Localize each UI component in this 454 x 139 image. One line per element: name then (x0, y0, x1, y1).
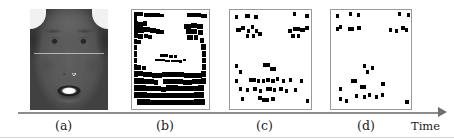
feature-block (148, 35, 152, 39)
feature-block (266, 87, 272, 91)
feature-block (239, 70, 242, 74)
feature-block (201, 71, 206, 77)
feature-block (398, 12, 401, 16)
figure-container: (a) (b) (c) (d) Time (0, 0, 454, 139)
blockmap-b (132, 10, 209, 109)
feature-block (368, 93, 371, 97)
page-rule-divider (0, 137, 454, 138)
feature-block (259, 89, 262, 93)
feature-block (339, 97, 342, 101)
blockmap-c (230, 10, 311, 109)
feature-block (138, 34, 143, 39)
feature-block (355, 94, 358, 98)
feature-block (246, 88, 249, 92)
feature-block (288, 29, 291, 33)
feature-block (258, 32, 261, 36)
feature-block (273, 88, 276, 92)
feature-block (200, 99, 205, 105)
feature-block (271, 97, 274, 101)
panel-a-face-image (30, 9, 108, 110)
feature-block (201, 44, 206, 50)
feature-block (144, 13, 153, 17)
feature-block (154, 80, 159, 85)
panel-caption-a: (a) (55, 119, 72, 133)
feature-block (282, 79, 285, 83)
feature-block (142, 66, 146, 70)
feature-block (293, 12, 296, 16)
panel-caption-c: (c) (256, 119, 273, 133)
feature-block (306, 99, 309, 103)
feature-block (305, 14, 308, 18)
feature-block (183, 59, 186, 62)
feature-block (164, 54, 168, 57)
feature-block (252, 34, 255, 38)
feature-block (363, 95, 366, 99)
feature-block (241, 97, 244, 101)
feature-block (254, 15, 257, 19)
blockmap-d (331, 10, 411, 109)
feature-block (276, 77, 279, 81)
feature-block (257, 79, 260, 83)
feature-block (179, 60, 182, 63)
feature-block (289, 78, 292, 82)
feature-block (395, 29, 398, 33)
feature-block (246, 34, 249, 38)
feature-block (245, 14, 251, 18)
feature-block (137, 65, 141, 70)
panel-caption-d: (d) (357, 119, 375, 133)
feature-block (134, 51, 137, 57)
feature-block (357, 26, 360, 30)
feature-block (143, 21, 147, 26)
feature-block (300, 79, 303, 83)
feature-block (407, 13, 410, 17)
feature-block (200, 38, 205, 43)
feature-block (249, 78, 255, 82)
feature-block (137, 99, 144, 105)
feature-block (305, 26, 309, 30)
feature-block (360, 85, 366, 89)
feature-block (297, 34, 300, 38)
feature-block (258, 96, 262, 100)
feature-block (198, 85, 203, 91)
feature-block (239, 87, 242, 91)
feature-block (405, 28, 408, 32)
feature-block (339, 25, 342, 29)
feature-block (285, 89, 288, 93)
feature-block (235, 64, 238, 68)
feature-block (351, 79, 357, 83)
feature-block (405, 100, 408, 104)
feature-block (251, 25, 254, 29)
feature-block (363, 64, 366, 68)
feature-block (160, 30, 164, 34)
feature-block (247, 29, 250, 33)
feature-block (339, 87, 342, 91)
feature-block (139, 27, 144, 33)
panel-caption-b: (b) (156, 119, 174, 133)
feature-block (336, 14, 339, 18)
feature-block (235, 15, 238, 19)
feature-block (381, 93, 384, 97)
feature-block (144, 99, 151, 105)
panel-b-binary-block-map (131, 9, 210, 110)
feature-block (198, 30, 203, 35)
feature-block (194, 35, 199, 40)
feature-block (197, 24, 202, 29)
feature-block (262, 79, 265, 83)
feature-block (349, 12, 352, 16)
feature-block (174, 55, 178, 58)
panel-c-sparse-dot-map (229, 9, 312, 110)
feature-block (366, 70, 369, 74)
feature-block (293, 27, 299, 31)
time-axis-label: Time (411, 119, 440, 133)
feature-block (169, 55, 173, 58)
feature-block (375, 95, 378, 99)
feature-block (202, 64, 206, 70)
feature-block (201, 14, 207, 18)
feature-block (279, 87, 282, 91)
feature-block (139, 12, 143, 16)
feature-block (294, 88, 297, 92)
feature-block (389, 28, 392, 32)
feature-block (253, 87, 256, 91)
feature-block (263, 63, 269, 67)
feature-block (165, 60, 170, 63)
